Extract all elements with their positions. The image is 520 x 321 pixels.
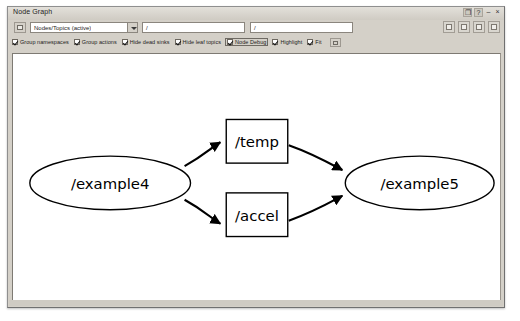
undock-icon: ❐ — [464, 8, 471, 18]
window-controls: ❐ ? – × — [463, 8, 501, 17]
group-actions-checkbox[interactable]: Group actions — [74, 39, 117, 45]
checkbox-indicator — [227, 39, 233, 45]
checkbox-label: Highlight — [280, 39, 302, 45]
node-label-example4: /example4 — [71, 175, 150, 193]
save-image-icon — [476, 24, 482, 30]
save-dot-button[interactable] — [458, 21, 470, 33]
save-image-button[interactable] — [473, 21, 485, 33]
checkbox-label: Hide dead sinks — [130, 39, 170, 45]
checkbox-indicator — [74, 39, 80, 45]
node-label-temp: /temp — [235, 133, 279, 151]
group-namespaces-checkbox[interactable]: Group namespaces — [12, 39, 69, 45]
node-example4[interactable]: /example4 — [30, 156, 191, 210]
topic-filter-input[interactable]: / — [250, 22, 353, 33]
hide-dead-sinks-checkbox[interactable]: Hide dead sinks — [122, 39, 170, 45]
checkbox-label: Node Debug — [235, 39, 266, 45]
node-accel[interactable]: /accel — [226, 193, 288, 237]
help-button[interactable]: ? — [474, 8, 483, 17]
load-icon — [491, 24, 497, 30]
checkbox-label: Hide leaf topics — [183, 39, 221, 45]
toolbar-row-controls: Nodes/Topics (active) / / — [9, 21, 503, 35]
zoom-fit-icon — [446, 24, 452, 30]
load-button[interactable] — [488, 21, 500, 33]
checkbox-label: Group actions — [82, 39, 117, 45]
checkbox-indicator — [307, 39, 313, 45]
checkbox-label: Group namespaces — [20, 39, 69, 45]
checkbox-indicator — [272, 39, 278, 45]
node-label-accel: /accel — [235, 207, 279, 225]
window-title: Node Graph — [13, 8, 52, 15]
graph-type-select[interactable]: Nodes/Topics (active) — [30, 22, 138, 33]
close-icon: × — [494, 7, 501, 17]
fit-checkbox[interactable]: Fit — [307, 39, 321, 45]
checkbox-label: Fit — [315, 39, 321, 45]
toolbar: Nodes/Topics (active) / / — [9, 20, 503, 50]
node-example5[interactable]: /example5 — [345, 156, 494, 210]
edge-example4-temp[interactable] — [185, 142, 221, 166]
toolbar-action-buttons — [443, 21, 500, 33]
undock-button[interactable]: ❐ — [463, 8, 472, 17]
hide-leaf-topics-checkbox[interactable]: Hide leaf topics — [175, 39, 221, 45]
checkbox-indicator — [175, 39, 181, 45]
edge-example4-accel[interactable] — [185, 200, 221, 224]
checkbox-indicator — [12, 39, 18, 45]
minimize-button[interactable]: – — [485, 8, 492, 17]
options-button[interactable] — [330, 38, 341, 47]
toolbar-row-checkboxes: Group namespaces Group actions Hide dead… — [12, 36, 503, 48]
graph-canvas[interactable]: /example4 /temp /accel /example5 — [12, 53, 501, 303]
refresh-button[interactable] — [14, 22, 26, 33]
checkbox-indicator — [122, 39, 128, 45]
refresh-icon — [17, 25, 23, 30]
node-graph-window: Node Graph ❐ ? – × — [7, 6, 505, 308]
close-button[interactable]: × — [494, 8, 501, 17]
node-temp[interactable]: /temp — [226, 119, 288, 163]
edge-temp-example5[interactable] — [289, 145, 343, 170]
help-icon: ? — [475, 8, 482, 18]
node-graph-svg[interactable]: /example4 /temp /accel /example5 — [13, 54, 500, 302]
graph-type-value: Nodes/Topics (active) — [31, 25, 91, 31]
graph-nodes: /example4 /temp /accel /example5 — [30, 119, 494, 236]
minimize-icon: – — [485, 7, 492, 17]
window-titlebar[interactable]: Node Graph ❐ ? – × — [8, 7, 504, 20]
node-label-example5: /example5 — [380, 175, 459, 193]
zoom-fit-button[interactable] — [443, 21, 455, 33]
edge-accel-example5[interactable] — [289, 196, 343, 221]
node-debug-checkbox[interactable]: Node Debug — [226, 39, 267, 45]
status-bar — [9, 300, 503, 306]
chevron-down-icon[interactable] — [127, 23, 137, 32]
screen: Node Graph ❐ ? – × — [0, 0, 520, 321]
namespace-filter-input[interactable]: / — [142, 22, 245, 33]
save-dot-icon — [461, 24, 467, 30]
highlight-checkbox[interactable]: Highlight — [272, 39, 302, 45]
